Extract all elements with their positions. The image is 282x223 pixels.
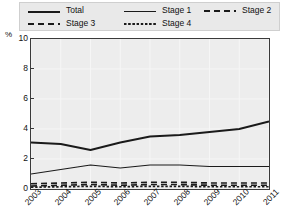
legend-swatch-total-icon (28, 6, 60, 15)
y-axis-tick-mark (30, 128, 34, 129)
x-axis-tick-label: 2004 (53, 187, 73, 207)
y-axis-tick-mark (30, 68, 34, 69)
legend-row: Total Stage 1 Stage 2 (20, 4, 279, 17)
legend-item-stage-1: Stage 1 (124, 4, 191, 17)
legend-swatch-stage-4-icon (124, 19, 156, 28)
y-axis-tick-label: 8 (4, 64, 28, 73)
y-axis-tick-label: 0 (4, 184, 28, 193)
plot-area (30, 38, 270, 190)
legend-item-stage-4: Stage 4 (124, 17, 191, 30)
y-axis: 0246810 (0, 38, 28, 190)
x-axis: 200320042005200620072008200920102011 (30, 190, 270, 223)
y-axis-tick-label: 10 (4, 34, 28, 43)
y-axis-tick-label: 6 (4, 94, 28, 103)
legend-item-stage-3: Stage 3 (28, 17, 95, 30)
legend-swatch-stage-3-icon (28, 19, 60, 28)
legend-label-stage-2: Stage 2 (242, 4, 271, 17)
legend-label-stage-1: Stage 1 (162, 4, 191, 17)
x-axis-tick-label: 2008 (172, 187, 192, 207)
x-axis-tick-label: 2010 (232, 187, 252, 207)
x-axis-tick-label: 2006 (113, 187, 133, 207)
x-axis-tick-label: 2005 (83, 187, 103, 207)
chart-legend: Total Stage 1 Stage 2 Stage 3 Stage 4 (19, 2, 280, 31)
legend-label-stage-4: Stage 4 (162, 17, 191, 30)
legend-swatch-stage-1-icon (124, 6, 156, 15)
x-axis-tick-label: 2009 (202, 187, 222, 207)
y-axis-tick-label: 4 (4, 124, 28, 133)
legend-label-total: Total (66, 4, 84, 17)
x-axis-tick-label: 2007 (142, 187, 162, 207)
legend-swatch-stage-2-icon (204, 6, 236, 15)
x-axis-tick-label: 2011 (262, 188, 281, 207)
y-axis-tick-mark (30, 98, 34, 99)
chart-container: Total Stage 1 Stage 2 Stage 3 Stage 4 % (0, 0, 282, 223)
legend-label-stage-3: Stage 3 (66, 17, 95, 30)
plot-svg (31, 39, 269, 189)
y-axis-tick-label: 2 (4, 154, 28, 163)
legend-row: Stage 3 Stage 4 (20, 17, 279, 30)
legend-item-total: Total (28, 4, 84, 17)
y-axis-tick-mark (30, 158, 34, 159)
legend-item-stage-2: Stage 2 (204, 4, 271, 17)
